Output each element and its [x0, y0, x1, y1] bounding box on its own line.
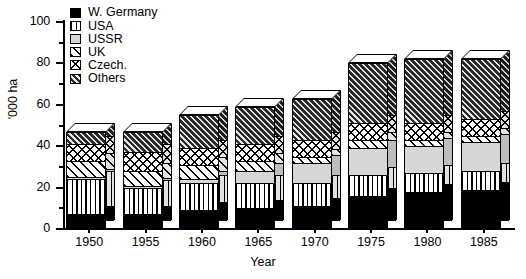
legend-label-w-germany: W. Germany	[88, 6, 157, 19]
y-tick-label: 80	[16, 56, 50, 69]
bar-side-segment-ussr	[332, 155, 340, 176]
bar-1960	[179, 115, 219, 229]
bar-side-face	[332, 90, 341, 220]
bar-segment-usa	[67, 179, 105, 214]
bar-segment-czech	[405, 123, 443, 140]
x-tick-label-1985: 1985	[457, 236, 511, 249]
x-tick-label-1950: 1950	[62, 236, 116, 249]
bar-side-segment-usa	[332, 175, 340, 198]
bar-segment-ussr	[405, 146, 443, 173]
x-axis-title: Year	[0, 255, 526, 269]
bar-side-segment-czech	[163, 144, 171, 163]
bar-side-segment-wgermany	[444, 184, 452, 221]
x-tick	[257, 228, 259, 233]
bar-side-segment-wgermany	[275, 200, 283, 221]
bar-side-segment-ussr	[275, 163, 283, 175]
y-tick-label: 20	[16, 181, 50, 194]
x-tick	[370, 228, 372, 233]
bar-segment-usa	[293, 183, 331, 206]
bar-side-segment-wgermany	[388, 188, 396, 221]
chart-figure: W. Germany USA USSR UK Czech. Others 020…	[0, 0, 526, 279]
bar-side-segment-uk	[275, 153, 283, 163]
bar-segment-others	[405, 59, 443, 123]
bar-side-segment-czech	[444, 115, 452, 132]
bar-side-face	[444, 50, 453, 220]
bar-side-segment-usa	[444, 165, 452, 184]
bar-side-segment-czech	[275, 136, 283, 153]
bar-segment-usa	[236, 183, 274, 208]
bar-segment-others	[293, 99, 331, 140]
bar-segment-uk	[124, 171, 162, 185]
y-tick-label: 0	[16, 222, 50, 235]
bar-side-segment-uk	[106, 153, 114, 170]
bar-segment-uk	[236, 161, 274, 171]
legend-label-uk: UK	[88, 46, 105, 59]
x-tick-label-1955: 1955	[119, 236, 173, 249]
y-tick-minor	[59, 125, 64, 127]
bar-side-segment-czech	[501, 111, 509, 128]
y-tick-label: 100	[16, 15, 50, 28]
bar-top-face	[292, 90, 341, 99]
bar-side-segment-usa	[275, 175, 283, 200]
bar-side-segment-usa	[388, 167, 396, 188]
bar-segment-others	[67, 132, 105, 144]
bar-1965	[235, 107, 275, 229]
bar-segment-wgermany	[293, 206, 331, 229]
bar-segment-others	[180, 115, 218, 148]
bar-segment-wgermany	[236, 208, 274, 229]
legend-label-ussr: USSR	[88, 33, 123, 46]
bar-segment-czech	[349, 123, 387, 140]
bar-front-face	[292, 99, 332, 229]
bar-segment-others	[124, 132, 162, 153]
bar-segment-wgermany	[405, 192, 443, 229]
legend-item-ussr: USSR	[70, 32, 157, 45]
legend-item-czech: Czech.	[70, 59, 157, 72]
bar-side-segment-wgermany	[219, 202, 227, 221]
bar-side-segment-uk	[219, 157, 227, 171]
y-tick-label: 40	[16, 139, 50, 152]
x-tick-label-1980: 1980	[400, 236, 454, 249]
bar-side-segment-ussr	[501, 134, 509, 163]
y-tick-minor	[59, 207, 64, 209]
bar-segment-czech	[293, 140, 331, 157]
bar-segment-usa	[405, 173, 443, 192]
legend-item-usa: USA	[70, 19, 157, 32]
legend-swatch-czech	[70, 60, 81, 70]
bar-1955	[123, 132, 163, 229]
bar-side-segment-ussr	[388, 140, 396, 167]
legend-swatch-uk	[70, 47, 81, 57]
bar-segment-ussr	[293, 163, 331, 184]
y-tick-major	[56, 104, 64, 106]
bar-segment-wgermany	[180, 210, 218, 229]
bar-top-face	[123, 123, 172, 132]
legend-label-czech: Czech.	[88, 59, 127, 72]
bar-side-segment-wgermany	[501, 182, 509, 221]
bar-segment-czech	[462, 119, 500, 136]
legend-swatch-w-germany	[70, 8, 81, 18]
bar-side-segment-uk	[163, 163, 171, 177]
bar-side-face	[106, 123, 115, 220]
bar-front-face	[66, 132, 106, 229]
bar-side-face	[388, 54, 397, 220]
x-tick-label-1965: 1965	[231, 236, 285, 249]
y-tick-major	[56, 62, 64, 64]
y-tick-minor	[59, 83, 64, 85]
bar-side-segment-uk	[388, 132, 396, 140]
y-tick-major	[56, 228, 64, 230]
bar-side-segment-czech	[219, 140, 227, 157]
chart-legend: W. Germany USA USSR UK Czech. Others	[70, 6, 157, 85]
x-tick	[145, 228, 147, 233]
y-tick-minor	[59, 166, 64, 168]
x-tick-label-1960: 1960	[175, 236, 229, 249]
y-tick-label: 60	[16, 98, 50, 111]
legend-swatch-others	[70, 74, 81, 84]
bar-front-face	[348, 63, 388, 229]
bar-segment-usa	[462, 171, 500, 190]
legend-swatch-ussr	[70, 34, 81, 44]
x-tick	[314, 228, 316, 233]
y-axis-title: '000 ha	[6, 68, 20, 130]
bar-1985	[461, 59, 501, 229]
legend-item-others: Others	[70, 72, 157, 85]
bar-side-segment-usa	[501, 163, 509, 182]
x-tick-label-1970: 1970	[288, 236, 342, 249]
